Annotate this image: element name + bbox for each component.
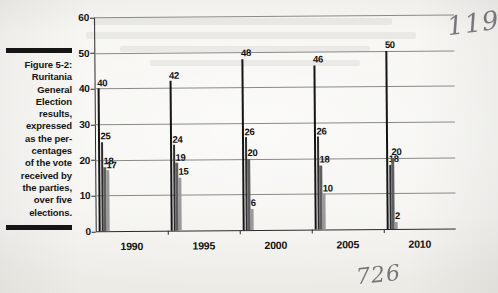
x-axis-label-2005: 2005 xyxy=(312,238,384,251)
plot-area: 0102030405060 40251817199042241915199548… xyxy=(94,14,456,231)
y-tick-label-20: 20 xyxy=(64,154,95,165)
y-tick-label-60: 60 xyxy=(63,12,94,23)
y-tick-label-10: 10 xyxy=(64,190,95,201)
bar-group-2010: 50182022010 xyxy=(382,14,456,229)
bar-2010-series-4[interactable]: 2 xyxy=(395,222,398,229)
bar-group-2005: 462618102005 xyxy=(310,15,384,230)
bar-value-label-2005-3: 18 xyxy=(320,155,330,165)
bar-value-label-2010-1: 50 xyxy=(385,40,395,50)
bar-value-label-2000-2: 26 xyxy=(244,127,254,137)
x-axis-label-1990: 1990 xyxy=(96,240,168,253)
x-tick-mark-2010 xyxy=(384,229,385,233)
y-tick-label-50: 50 xyxy=(63,47,94,58)
x-axis-label-2010: 2010 xyxy=(384,237,456,250)
y-tick-label-40: 40 xyxy=(64,83,95,94)
bar-value-label-2005-2: 26 xyxy=(316,126,326,136)
y-tick-label-0: 0 xyxy=(65,226,96,237)
bar-group-2000: 48262062000 xyxy=(238,16,312,231)
bar-value-label-1995-1: 42 xyxy=(169,70,179,80)
bar-value-label-1990-4: 17 xyxy=(106,160,116,170)
bar-value-label-2000-3: 20 xyxy=(248,148,258,158)
x-tick-mark-1995 xyxy=(168,231,169,235)
bar-group-1990: 402518171990 xyxy=(94,17,168,232)
x-tick-mark-2005 xyxy=(312,230,313,234)
bar-value-label-1995-4: 15 xyxy=(179,167,189,177)
bar-2000-series-4[interactable]: 6 xyxy=(251,209,254,230)
bar-value-label-1995-3: 19 xyxy=(176,152,186,162)
bar-value-label-2000-1: 48 xyxy=(241,48,251,58)
bar-1995-series-4[interactable]: 15 xyxy=(179,177,182,231)
bar-value-label-2010-3: 20 xyxy=(391,147,401,157)
bar-value-label-1990-2: 25 xyxy=(100,132,110,142)
bar-2005-series-4[interactable]: 10 xyxy=(323,194,326,230)
x-axis-label-2000: 2000 xyxy=(240,239,312,252)
x-tick-mark-2000 xyxy=(240,230,241,234)
x-axis-label-1995: 1995 xyxy=(168,239,240,252)
bar-groups: 4025181719904224191519954826206200046261… xyxy=(94,14,454,17)
y-tick-label-30: 30 xyxy=(64,119,95,130)
bar-value-label-1995-2: 24 xyxy=(172,135,182,145)
bar-1990-series-4[interactable]: 17 xyxy=(107,171,110,232)
y-tick-mark-0 xyxy=(92,231,96,232)
bar-value-label-2000-4: 6 xyxy=(251,198,256,208)
bar-value-label-2005-4: 10 xyxy=(323,183,333,193)
bar-chart: 0102030405060 40251817199042241915199548… xyxy=(60,2,462,273)
bar-value-label-2005-1: 46 xyxy=(313,55,323,65)
bar-value-label-2010-4: 2 xyxy=(395,211,400,221)
bar-group-1995: 422419151995 xyxy=(166,16,240,231)
bar-value-label-1990-1: 40 xyxy=(97,78,107,88)
